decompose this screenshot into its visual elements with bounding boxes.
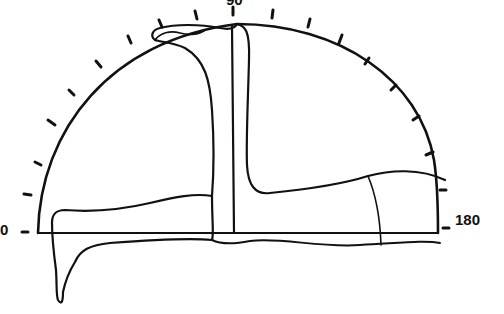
curve-lower-baseline <box>212 240 440 246</box>
tick-marks <box>22 7 449 232</box>
label-180: 180 <box>455 211 480 228</box>
curve-left-loop-lower <box>52 196 213 302</box>
inner-arc-right <box>368 176 381 245</box>
vertical-reference-line <box>232 26 234 233</box>
label-0: 0 <box>0 221 8 238</box>
label-90: 90 <box>226 0 243 8</box>
polar-diagram <box>0 0 504 314</box>
semicircle-arc <box>38 24 438 233</box>
